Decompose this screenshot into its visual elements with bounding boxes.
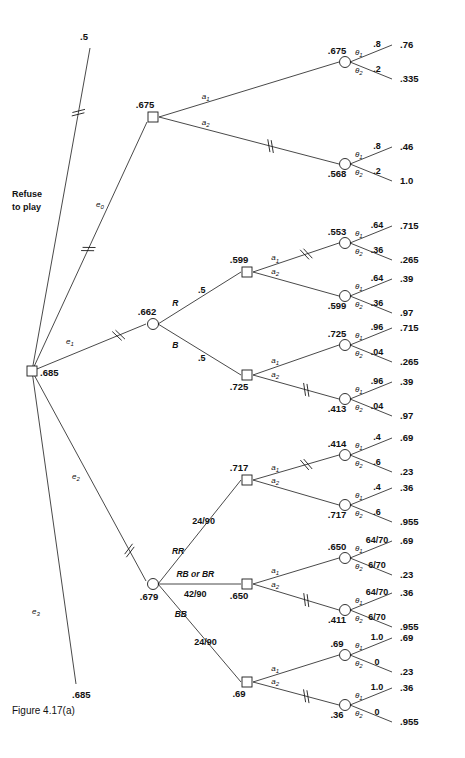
e1-prob-result-2: .5	[198, 353, 206, 363]
e0-label-action-2: a2	[202, 118, 210, 128]
e0-value-decision: .675	[136, 99, 155, 110]
e0-chance-node-1[interactable]	[340, 57, 351, 68]
e2-r2-edge-action-2	[253, 584, 339, 610]
e2-r3-chance-node-1[interactable]	[340, 650, 351, 661]
e1-r1-payoff-2-1: .39	[400, 273, 413, 284]
e2-r3-prob-2-1: 1.0	[371, 682, 384, 692]
e2-r1-value-chance-1: .414	[328, 438, 347, 449]
e1-r2-edge-action-2	[253, 375, 339, 399]
e0-prob-2-1: .8	[373, 141, 381, 151]
e0-prob-2-2: .2	[373, 166, 381, 176]
value-root: .685	[40, 367, 59, 378]
e2-r3-value-chance-1: .69	[330, 638, 343, 649]
e1-chance-node[interactable]	[148, 319, 159, 330]
e2-r3-label-state-2-1: θ1	[355, 691, 363, 701]
e1-r2-payoff-1-1: .715	[400, 322, 419, 333]
e1-label-result-1: R	[172, 298, 179, 308]
e2-chance-node[interactable]	[148, 579, 159, 590]
e2-decision-node-2[interactable]	[242, 579, 252, 589]
e1-r1-payoff-1-2: .265	[400, 254, 419, 265]
root-decision-node[interactable]	[27, 366, 37, 376]
e2-r1-payoff-2-2: .955	[400, 516, 419, 527]
e0-value-chance-1: .675	[328, 45, 347, 56]
e1-r2-chance-node-1[interactable]	[340, 340, 351, 351]
e2-r2-prob-1-1: 64/70	[366, 535, 389, 545]
e2-r3-prob-1-1: 1.0	[371, 632, 384, 642]
e2-r2-label-state-2-1: θ1	[355, 596, 363, 606]
e1-r1-edge-action-2	[253, 272, 339, 296]
decision-tree-canvas: .5Refuseto playe0e1e2e3.685.685.675a1.67…	[0, 0, 465, 758]
value-refuse-terminal: .5	[80, 31, 89, 42]
label-e1: e1	[66, 337, 74, 347]
e0-value-chance-2: .568	[328, 168, 347, 179]
e0-payoff-1-1: .76	[400, 39, 413, 50]
e2-r1-chance-node-1[interactable]	[340, 450, 351, 461]
e0-edge-action-1	[159, 62, 339, 117]
label-e3: e3	[32, 607, 40, 617]
e2-label-result-1: RR	[172, 546, 185, 556]
e2-r1-label-action-2: a2	[271, 476, 279, 486]
e2-r3-payoff-2-1: .36	[400, 682, 413, 693]
e1-r1-prob-1-1: .64	[371, 220, 384, 230]
e0-edge-action-2	[159, 117, 339, 164]
figure-caption: Figure 4.17(a)	[12, 705, 75, 716]
e2-r3-payoff-2-2: .955	[400, 716, 419, 727]
e1-decision-node-2[interactable]	[242, 370, 252, 380]
e2-r3-prob-2-2: 0	[374, 707, 379, 717]
e1-value-decision-2: .725	[230, 381, 249, 392]
e2-r2-payoff-1-1: .69	[400, 535, 413, 546]
e2-prob-result-3: 24/90	[194, 637, 217, 647]
e2-value-decision-1: .717	[230, 462, 249, 473]
e2-r3-prob-1-2: 0	[374, 657, 379, 667]
e0-decision-node[interactable]	[148, 112, 158, 122]
e1-r1-payoff-2-2: .97	[400, 307, 413, 318]
e0-label-state-2-1: θ1	[355, 150, 363, 160]
e1-r2-payoff-2-2: .97	[400, 410, 413, 421]
edge-e2	[32, 371, 146, 581]
e2-r2-prob-2-2: 6/70	[368, 612, 386, 622]
e2-r1-payoff-1-1: .69	[400, 432, 413, 443]
label-e0: e0	[96, 200, 104, 210]
e2-r2-payoff-1-2: .23	[400, 569, 413, 580]
decision-tree-figure: .5Refuseto playe0e1e2e3.685.685.675a1.67…	[0, 0, 465, 758]
e2-r1-label-state-2-2: θ2	[355, 509, 363, 519]
e2-r2-label-state-1-2: θ2	[355, 562, 363, 572]
e2-value-decision-3: .69	[232, 688, 245, 699]
e1-label-result-2: B	[172, 340, 178, 350]
e2-r3-label-state-1-1: θ1	[355, 641, 363, 651]
e1-r1-label-state-1-1: θ1	[355, 229, 363, 239]
e1-r2-label-action-2: a2	[271, 370, 279, 380]
e2-r3-label-state-2-2: θ2	[355, 709, 363, 719]
e2-r3-edge-action-2	[253, 682, 339, 705]
e1-r1-value-chance-1: .553	[328, 226, 347, 237]
e1-r1-chance-node-1[interactable]	[340, 238, 351, 249]
e2-decision-node-1[interactable]	[242, 475, 252, 485]
e2-r2-prob-2-1: 64/70	[366, 587, 389, 597]
e1-r2-prob-2-2: .04	[371, 401, 384, 411]
e1-r1-value-chance-2: .599	[328, 300, 347, 311]
e1-r2-label-state-2-2: θ2	[355, 403, 363, 413]
e0-prob-1-2: .2	[373, 64, 381, 74]
e2-label-result-3: BB	[175, 609, 187, 619]
value-e3-terminal: .685	[72, 689, 91, 700]
e1-r2-value-chance-1: .725	[328, 328, 347, 339]
e2-r1-label-state-1-1: θ1	[355, 441, 363, 451]
e1-decision-node-1[interactable]	[242, 267, 252, 277]
e2-r1-label-state-1-2: θ2	[355, 459, 363, 469]
e1-r1-prob-1-2: .36	[371, 245, 384, 255]
e2-r1-label-action-1: a1	[271, 463, 279, 473]
edge-e0	[32, 122, 147, 371]
e2-r3-label-action-1: a1	[271, 664, 279, 674]
e0-payoff-2-1: .46	[400, 141, 413, 152]
e2-r2-label-action-2: a2	[271, 580, 279, 590]
e1-r1-payoff-1-1: .715	[400, 220, 419, 231]
e1-r2-prob-2-1: .96	[371, 376, 384, 386]
e2-r2-label-state-1-1: θ1	[355, 544, 363, 554]
e1-r1-prob-2-2: .36	[371, 298, 384, 308]
e2-value-decision-2: .650	[230, 590, 249, 601]
e1-r2-value-chance-2: .413	[328, 403, 347, 414]
e2-decision-node-3[interactable]	[242, 677, 252, 687]
e2-r2-chance-node-1[interactable]	[340, 553, 351, 564]
label-refuse-line1: Refuse	[12, 189, 42, 199]
e2-r3-value-chance-2: .36	[330, 709, 343, 720]
